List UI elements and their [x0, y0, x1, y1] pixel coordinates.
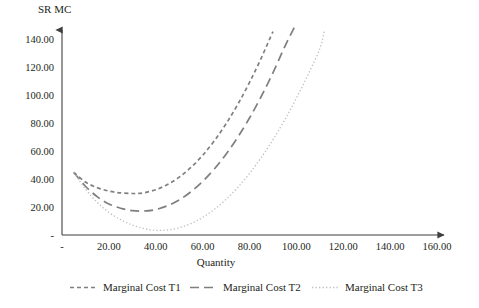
chart-canvas: SR MC Quantity -20.0040.0060.0080.00100.… — [0, 0, 479, 308]
y-tick-label: 100.00 — [25, 90, 54, 101]
legend-label-3: Marginal Cost T3 — [345, 281, 423, 293]
y-tick-labels: -20.0040.0060.0080.00100.00120.00140.00 — [25, 34, 54, 240]
x-tick-label: 20.00 — [97, 241, 121, 252]
y-tick-label: 40.00 — [30, 174, 54, 185]
x-tick-label: - — [60, 241, 64, 252]
y-tick-label: - — [51, 230, 55, 241]
y-axis-title: SR MC — [38, 3, 71, 15]
curve-series-2 — [74, 23, 297, 211]
x-tick-label: 80.00 — [238, 241, 262, 252]
x-tick-label: 60.00 — [191, 241, 215, 252]
x-tick-labels: -20.0040.0060.0080.00100.00120.00140.001… — [60, 241, 451, 252]
y-tick-label: 60.00 — [30, 146, 54, 157]
legend-label-1: Marginal Cost T1 — [103, 281, 181, 293]
y-tick-label: 20.00 — [30, 202, 54, 213]
x-tick-label: 140.00 — [376, 241, 405, 252]
chart-legend: Marginal Cost T1Marginal Cost T2Marginal… — [70, 281, 423, 293]
curve-series-1 — [74, 32, 273, 194]
marginal-cost-chart: SR MC Quantity -20.0040.0060.0080.00100.… — [0, 0, 479, 308]
x-tick-label: 120.00 — [329, 241, 358, 252]
x-tick-label: 40.00 — [144, 241, 168, 252]
y-tick-label: 120.00 — [25, 62, 54, 73]
x-axis-title: Quantity — [197, 256, 236, 268]
y-tick-label: 140.00 — [25, 34, 54, 45]
series-curves — [74, 23, 325, 230]
y-tick-label: 80.00 — [30, 118, 54, 129]
x-tick-label: 100.00 — [282, 241, 311, 252]
curve-series-3 — [74, 30, 325, 230]
x-tick-label: 160.00 — [423, 241, 452, 252]
legend-label-2: Marginal Cost T2 — [223, 281, 301, 293]
